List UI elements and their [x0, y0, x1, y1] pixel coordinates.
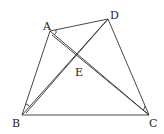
geometry-diagram: A D E B C: [0, 0, 164, 134]
angle-mark-c: [143, 106, 145, 110]
segment-ab: [22, 31, 50, 115]
segment-ac-inner: [52, 35, 149, 115]
label-c: C: [149, 118, 157, 129]
label-e: E: [75, 67, 83, 78]
angle-mark-b: [26, 104, 30, 107]
label-b: B: [12, 118, 20, 129]
label-a: A: [43, 21, 51, 32]
angle-mark-a: [54, 30, 56, 35]
segment-dc: [108, 19, 149, 115]
label-d: D: [110, 10, 119, 21]
